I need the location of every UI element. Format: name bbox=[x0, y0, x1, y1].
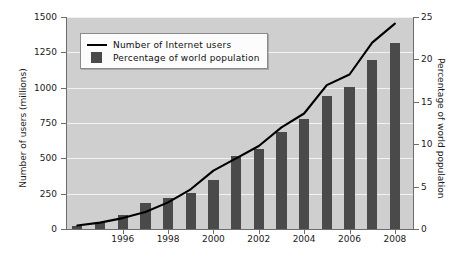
y-axis-right-tick-label: 10 bbox=[421, 139, 432, 149]
y-axis-right-tick bbox=[414, 102, 419, 103]
y-axis-left-tick-label: 0 bbox=[51, 224, 57, 234]
y-axis-right-tick bbox=[414, 17, 419, 18]
y-axis-right-tick-label: 0 bbox=[421, 224, 427, 234]
y-axis-right-spine bbox=[413, 17, 414, 230]
y-axis-left-tick-label: 250 bbox=[40, 189, 57, 199]
y-axis-right-tick-label: 5 bbox=[421, 182, 427, 192]
y-axis-right-tick bbox=[414, 144, 419, 145]
chart-figure: 0250500750100012501500 0510152025 199619… bbox=[0, 0, 472, 266]
x-axis-tick bbox=[168, 230, 169, 234]
y-axis-right-title: Percentage of world population bbox=[436, 58, 446, 198]
y-axis-left-tick-label: 1500 bbox=[34, 12, 57, 22]
y-axis-left-tick bbox=[61, 194, 66, 195]
y-axis-left-tick bbox=[61, 52, 66, 53]
legend-item-line: Number of Internet users bbox=[86, 38, 260, 51]
x-axis-tick-label: 2004 bbox=[293, 234, 316, 244]
y-axis-right-tick-label: 20 bbox=[421, 54, 432, 64]
y-axis-left-tick bbox=[61, 229, 66, 230]
y-axis-right-tick bbox=[414, 59, 419, 60]
x-axis-tick-label: 2008 bbox=[383, 234, 406, 244]
x-axis-tick-label: 2006 bbox=[338, 234, 361, 244]
legend-label-line: Number of Internet users bbox=[113, 40, 231, 50]
legend-line-marker-icon bbox=[86, 39, 108, 50]
y-axis-right-tick bbox=[414, 229, 419, 230]
y-axis-left-tick-label: 1250 bbox=[34, 47, 57, 57]
x-axis-tick bbox=[395, 230, 396, 234]
x-axis-tick bbox=[350, 230, 351, 234]
y-axis-right-tick-label: 15 bbox=[421, 97, 432, 107]
x-axis-tick bbox=[213, 230, 214, 234]
x-axis-tick-label: 1998 bbox=[157, 234, 180, 244]
x-axis-tick bbox=[259, 230, 260, 234]
legend: Number of Internet users Percentage of w… bbox=[80, 33, 268, 69]
y-axis-right-tick-label: 25 bbox=[421, 12, 432, 22]
y-axis-left-tick bbox=[61, 17, 66, 18]
y-axis-left-labels: 0250500750100012501500 bbox=[0, 0, 57, 266]
x-axis-spine bbox=[66, 229, 414, 230]
y-axis-left-tick-label: 500 bbox=[40, 153, 57, 163]
y-axis-left-spine bbox=[66, 17, 67, 230]
y-axis-left-title: Number of users (millions) bbox=[18, 58, 28, 198]
legend-item-bar: Percentage of world population bbox=[86, 51, 260, 64]
x-axis-tick-label: 2002 bbox=[247, 234, 270, 244]
y-axis-left-tick-label: 1000 bbox=[34, 83, 57, 93]
y-axis-left-tick bbox=[61, 88, 66, 89]
x-axis-tick bbox=[304, 230, 305, 234]
y-axis-right-tick bbox=[414, 187, 419, 188]
y-axis-left-tick bbox=[61, 158, 66, 159]
y-axis-left-tick-label: 750 bbox=[40, 118, 57, 128]
x-axis-tick-label: 2000 bbox=[202, 234, 225, 244]
x-axis-tick bbox=[123, 230, 124, 234]
legend-square-marker-icon bbox=[86, 52, 108, 63]
y-axis-left-tick bbox=[61, 123, 66, 124]
legend-label-bar: Percentage of world population bbox=[113, 53, 260, 63]
x-axis-tick-label: 1996 bbox=[111, 234, 134, 244]
